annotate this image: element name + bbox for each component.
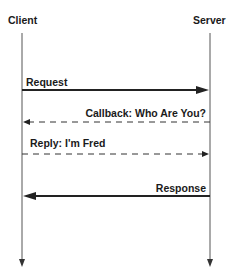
participant-server-label: Server (193, 14, 226, 26)
response-arrowhead-icon (23, 192, 36, 200)
callback-arrowhead-icon (23, 119, 30, 125)
sequence-diagram: Client Server Request Callback: Who Are … (0, 0, 231, 273)
message-response-label: Response (156, 182, 206, 194)
server-lifeline-arrow-icon (207, 259, 213, 267)
message-request-label: Request (26, 76, 68, 88)
reply-arrowhead-icon (202, 151, 209, 157)
message-callback-label: Callback: Who Are You? (85, 107, 206, 119)
participant-client-label: Client (8, 14, 38, 26)
message-reply-label: Reply: I'm Fred (30, 137, 105, 149)
client-lifeline-arrow-icon (19, 259, 25, 267)
request-arrowhead-icon (196, 86, 209, 94)
